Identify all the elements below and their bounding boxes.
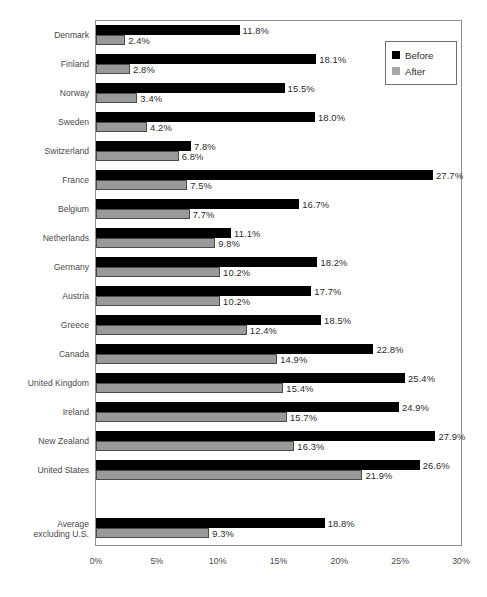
- y-axis-label: Canada: [0, 349, 89, 359]
- legend-item-after: After: [392, 63, 450, 79]
- bar-after: [96, 325, 247, 335]
- bar-before: [96, 228, 231, 238]
- y-axis-label: New Zealand: [0, 436, 89, 446]
- bar-before: [96, 402, 399, 412]
- bar-value-label: 3.4%: [140, 94, 162, 104]
- bar-before: [96, 83, 285, 93]
- bar-value-label: 18.2%: [320, 258, 347, 268]
- bar-value-label: 16.3%: [297, 442, 324, 452]
- bar-before: [96, 257, 317, 267]
- legend-item-before: Before: [392, 47, 450, 63]
- bar-after: [96, 151, 179, 161]
- bar-value-label: 15.5%: [288, 84, 315, 94]
- y-axis-label: Austria: [0, 291, 89, 301]
- bar-after: [96, 180, 187, 190]
- bar-value-label: 27.9%: [438, 432, 465, 442]
- bar-after: [96, 35, 125, 45]
- bar-before: [96, 25, 240, 35]
- bar-value-label: 18.1%: [319, 55, 346, 65]
- bar-after: [96, 412, 287, 422]
- bar-after: [96, 528, 209, 538]
- y-axis-label: United Kingdom: [0, 378, 89, 388]
- bar-before: [96, 344, 373, 354]
- bar-after: [96, 441, 294, 451]
- bar-value-label: 2.4%: [128, 36, 150, 46]
- bar-chart: DenmarkFinlandNorwaySwedenSwitzerlandFra…: [0, 0, 487, 597]
- bar-after: [96, 470, 362, 480]
- bar-value-label: 9.8%: [218, 239, 240, 249]
- y-axis-label: United States: [0, 465, 89, 475]
- x-axis-tick-label: 10%: [209, 556, 227, 566]
- y-axis-label: Finland: [0, 59, 89, 69]
- bar-value-label: 15.7%: [290, 413, 317, 423]
- bar-value-label: 18.8%: [328, 519, 355, 529]
- x-axis-tick-label: 20%: [331, 556, 349, 566]
- bar-value-label: 10.2%: [223, 297, 250, 307]
- bar-value-label: 14.9%: [280, 355, 307, 365]
- y-axis-label: Netherlands: [0, 233, 89, 243]
- x-axis-tick-label: 25%: [391, 556, 409, 566]
- y-axis-label: Greece: [0, 320, 89, 330]
- bar-before: [96, 286, 311, 296]
- bar-before: [96, 373, 405, 383]
- bar-before: [96, 112, 315, 122]
- bar-after: [96, 93, 137, 103]
- bar-after: [96, 64, 130, 74]
- bar-value-label: 10.2%: [223, 268, 250, 278]
- bar-before: [96, 518, 325, 528]
- bar-after: [96, 267, 220, 277]
- bar-value-label: 12.4%: [250, 326, 277, 336]
- bar-before: [96, 431, 435, 441]
- bar-after: [96, 122, 147, 132]
- bar-after: [96, 296, 220, 306]
- legend-label-after: After: [405, 66, 425, 77]
- bar-value-label: 11.8%: [243, 26, 269, 36]
- bar-before: [96, 170, 433, 180]
- bar-before: [96, 460, 420, 470]
- bar-after: [96, 383, 283, 393]
- bar-before: [96, 199, 299, 209]
- bar-after: [96, 209, 190, 219]
- x-axis-tick-label: 30%: [452, 556, 470, 566]
- y-axis-label: France: [0, 175, 89, 185]
- bar-value-label: 6.8%: [182, 152, 204, 162]
- bar-value-label: 18.0%: [318, 113, 345, 123]
- legend-label-before: Before: [405, 50, 433, 61]
- bar-value-label: 9.3%: [212, 529, 234, 539]
- bar-value-label: 4.2%: [150, 123, 172, 133]
- legend: Before After: [385, 41, 457, 85]
- bar-before: [96, 141, 191, 151]
- legend-swatch-before-icon: [392, 51, 400, 59]
- chart-title: [95, 0, 475, 5]
- bar-value-label: 15.4%: [286, 384, 313, 394]
- x-axis-tick-label: 15%: [270, 556, 288, 566]
- bar-before: [96, 315, 321, 325]
- bar-after: [96, 354, 277, 364]
- bar-value-label: 18.5%: [324, 316, 351, 326]
- y-axis-label: Averageexcluding U.S.: [0, 519, 89, 539]
- x-axis-ticks: 0%5%10%15%20%25%30%: [0, 556, 487, 572]
- legend-swatch-after-icon: [392, 67, 400, 75]
- bar-value-label: 7.5%: [190, 181, 212, 191]
- y-axis-label: Norway: [0, 88, 89, 98]
- bar-value-label: 2.8%: [133, 65, 155, 75]
- y-axis-label: Ireland: [0, 407, 89, 417]
- bar-value-label: 26.6%: [423, 461, 450, 471]
- bar-value-label: 16.7%: [302, 200, 329, 210]
- bar-value-label: 24.9%: [402, 403, 429, 413]
- bar-after: [96, 238, 215, 248]
- bar-value-label: 25.4%: [408, 374, 435, 384]
- y-axis-label: Sweden: [0, 117, 89, 127]
- bar-value-label: 22.8%: [376, 345, 403, 355]
- bar-value-label: 7.7%: [193, 210, 215, 220]
- y-axis-label: Switzerland: [0, 146, 89, 156]
- y-axis-label: Belgium: [0, 204, 89, 214]
- bar-value-label: 21.9%: [365, 471, 392, 481]
- x-axis-tick-label: 0%: [90, 556, 103, 566]
- bar-value-label: 17.7%: [314, 287, 341, 297]
- y-axis-label: Germany: [0, 262, 89, 272]
- x-axis-tick-label: 5%: [150, 556, 163, 566]
- bar-value-label: 27.7%: [436, 171, 463, 181]
- bars-layer: 11.8%2.4%18.1%2.8%15.5%3.4%18.0%4.2%7.8%…: [96, 21, 461, 545]
- y-axis-label: Denmark: [0, 30, 89, 40]
